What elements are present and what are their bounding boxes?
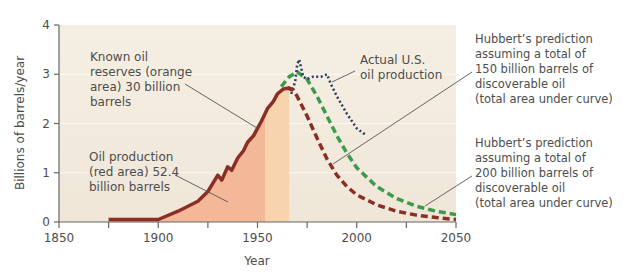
reserves-annotation: Known oil reserves (orange area) 30 bill…: [90, 50, 192, 110]
h200-line-3: 200 billion barrels of: [475, 166, 613, 181]
h200-line-5: (total area under curve): [475, 196, 613, 211]
y-tick-label: 2: [42, 117, 50, 131]
hubbert-200-annotation: Hubbert’s prediction assuming a total of…: [475, 136, 613, 211]
x-tick-label: 2050: [441, 231, 472, 245]
x-tick-label: 1900: [143, 231, 174, 245]
reserves-line-4: barrels: [90, 95, 192, 110]
actual-line-1: Actual U.S.: [360, 53, 442, 68]
y-tick-label: 3: [42, 67, 50, 81]
y-tick-label: 4: [42, 18, 50, 32]
h200-line-2: assuming a total of: [475, 151, 613, 166]
reserves-line-3: area) 30 billion: [90, 80, 192, 95]
h150-line-4: discoverable oil: [475, 77, 613, 92]
x-tick-label: 2000: [341, 231, 372, 245]
y-tick-label: 0: [42, 215, 50, 229]
y-axis-title: Billions of barrels/year: [13, 56, 27, 190]
h150-line-1: Hubbert’s prediction: [475, 32, 613, 47]
reserves-line-1: Known oil: [90, 50, 192, 65]
x-tick-label: 1950: [242, 231, 273, 245]
hubbert-150-annotation: Hubbert’s prediction assuming a total of…: [475, 32, 613, 107]
h150-line-3: 150 billion barrels of: [475, 62, 613, 77]
production-line-2: (red area) 52.4: [89, 165, 179, 180]
production-annotation: Oil production (red area) 52.4 billion b…: [89, 150, 179, 195]
production-line-1: Oil production: [89, 150, 179, 165]
x-tick-label: 1850: [44, 231, 75, 245]
h150-line-2: assuming a total of: [475, 47, 613, 62]
reserves-line-2: reserves (orange: [90, 65, 192, 80]
h150-line-5: (total area under curve): [475, 92, 613, 107]
h200-line-4: discoverable oil: [475, 181, 613, 196]
h200-line-1: Hubbert’s prediction: [475, 136, 613, 151]
x-axis-title: Year: [243, 254, 269, 268]
production-line-3: billion barrels: [89, 180, 179, 195]
y-tick-label: 1: [42, 166, 50, 180]
actual-annotation: Actual U.S. oil production: [360, 53, 442, 83]
actual-line-2: oil production: [360, 68, 442, 83]
